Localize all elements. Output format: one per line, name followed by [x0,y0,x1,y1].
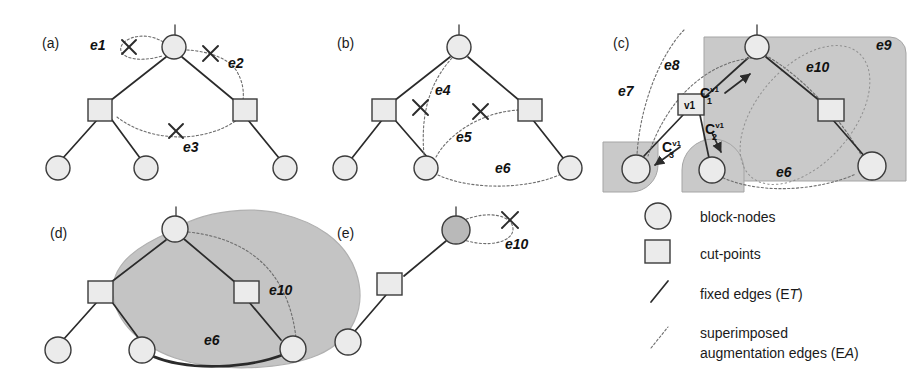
panel-b-label: (b) [337,35,354,51]
panel-a-label-e3: e3 [183,139,199,155]
panel-e-x-e10 [502,212,518,228]
panel-b-aug-e5 [436,110,519,157]
legend-item-label-0: block-nodes [700,209,776,225]
panel-d-label-e10: e10 [269,282,293,298]
panel-e-edge-circle-square [404,241,446,276]
panel-a-x-e1 [122,40,136,54]
panel-b-aug-e4 [423,58,452,155]
legend: block-nodes cut-points fixed edges (ET) … [645,203,859,361]
panel-b-edge-rightsq-c3 [533,120,563,158]
panel-a-edge-leftsq-c1 [63,120,97,158]
panel-d: (d) e10 e6 [45,207,360,368]
panel-c-block-node-root [745,35,769,59]
panel-b-block-node-3 [558,156,582,180]
panel-e-block-node-leaf [335,329,361,355]
panel-b-x-e4 [413,100,428,115]
panel-a-block-node-3 [273,156,297,180]
panel-b-label-e6: e6 [495,160,511,176]
panel-a-edge-top-leftsq [110,57,166,101]
panel-c-label-e6: e6 [776,164,792,180]
panel-e-block-node-merged [442,216,470,244]
legend-dashed-line-icon [651,327,668,348]
panel-b-edge-top-rightsq [468,57,520,101]
panel-d-label-e6: e6 [204,332,220,348]
panel-b-edge-leftsq-c1 [352,120,382,158]
panel-e: (e) e10 [335,207,529,355]
panel-a-cut-point-right [233,99,257,121]
panel-a-edge-leftsq-c2 [112,120,140,158]
panel-a-label: (a) [42,35,59,51]
panel-b-block-node-root [447,35,471,59]
panel-a-block-node-1 [46,156,70,180]
panel-a-block-node-2 [134,156,158,180]
panel-c-label: (c) [613,35,629,51]
panel-a-cut-point-left [88,99,112,121]
panel-b-cut-point-left [372,99,396,121]
panel-c-label-e9: e9 [876,37,892,53]
panel-d-block-node-3 [280,336,306,362]
panel-e-cut-point [377,273,402,295]
panel-b: (b) e4 e5 e6 [333,25,582,186]
panel-a-label-e2: e2 [228,55,244,71]
panel-c-block-node-c3 [622,155,650,183]
panel-d-cut-point-right [234,281,259,303]
panel-b-block-node-2 [414,156,438,180]
panel-d-block-node-1 [45,337,71,363]
panel-c-v1-label: v1 [684,100,696,111]
panel-a-x-e3 [169,124,183,138]
panel-a-label-e1: e1 [90,37,106,53]
panel-c-block-node-c2 [699,157,725,183]
panel-c-label-e8: e8 [664,57,680,73]
panel-a: (a) e1 e2 e3 [42,25,297,180]
legend-solid-line-icon [651,281,668,302]
panel-e-label: (e) [337,225,354,241]
legend-item-label-3a: superimposed [700,325,788,341]
panel-d-edge-leftsq-c1 [63,302,97,340]
panel-d-label: (d) [50,225,67,241]
panel-c-label-e10: e10 [806,59,830,75]
panel-c: (c) e7 e8 e9 e10 e6 v1 Cv11 Cv12 [603,22,906,209]
legend-item-label-2: fixed edges (ET) [700,286,803,302]
legend-item-label-3b: augmentation edges (EA) [700,345,859,361]
panel-a-x-e2 [203,46,218,61]
panel-c-block-node-c1 [858,152,886,180]
panel-b-block-node-1 [333,156,357,180]
panel-d-block-node-2 [129,337,155,363]
panel-c-aug-e7 [637,30,684,155]
panel-a-edge-rightsq-c3 [248,120,279,158]
panel-c-label-e7: e7 [618,83,635,99]
panel-b-cut-point-right [518,99,542,121]
legend-circle-icon [645,203,671,229]
panel-b-label-e4: e4 [435,82,451,98]
panel-d-cut-point-left [88,281,113,303]
legend-item-label-1: cut-points [700,246,761,262]
panel-c-cut-point-right [818,99,844,121]
panel-e-label-e10: e10 [505,236,529,252]
panel-d-block-node-root [162,216,188,242]
figure-canvas: (a) e1 e2 e3 [0,0,918,379]
panel-a-aug-e3 [117,117,237,137]
panel-a-block-node-root [162,35,186,59]
legend-square-icon [645,240,670,263]
panel-b-label-e5: e5 [456,129,472,145]
panel-b-x-e5 [473,104,488,119]
